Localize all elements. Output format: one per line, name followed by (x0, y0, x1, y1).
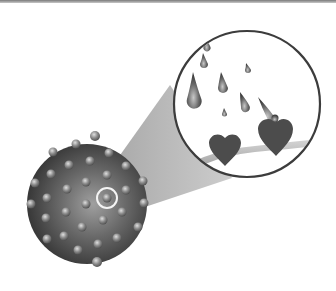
bound-ligand (272, 115, 279, 122)
cell-receptor-illustration (0, 0, 336, 291)
magnified-inset (174, 31, 330, 177)
